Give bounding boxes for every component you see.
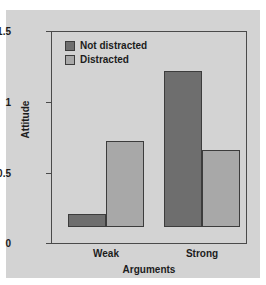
legend-swatch-icon-distracted — [65, 55, 75, 65]
y-tick-mark-0 — [46, 243, 51, 244]
bar-weak-not-distracted — [68, 214, 106, 227]
y-tick-label-1: 0.5 — [0, 169, 11, 179]
legend-item-not-distracted: Not distracted — [65, 40, 147, 52]
legend-swatch-icon-not-distracted — [65, 41, 75, 51]
y-tick-mark-2 — [46, 102, 51, 103]
bar-strong-not-distracted — [164, 71, 202, 227]
x-tick-label-strong: Strong — [157, 248, 247, 259]
y-tick-mark-3 — [46, 31, 51, 32]
x-tick-label-weak: Weak — [61, 248, 151, 259]
y-axis-label: Attitude — [20, 80, 31, 160]
chart-figure: 1.5 1 0.5 0 Attitude Weak Strong Argumen… — [6, 10, 260, 278]
legend: Not distracted Distracted — [62, 38, 151, 71]
y-tick-mark-1 — [46, 173, 51, 174]
y-tick-label-0: 0 — [0, 239, 11, 249]
y-tick-label-2: 1 — [0, 98, 11, 108]
legend-label-distracted: Distracted — [80, 55, 129, 65]
x-axis-label: Arguments — [51, 264, 247, 275]
legend-label-not-distracted: Not distracted — [80, 41, 147, 51]
bar-weak-distracted — [106, 141, 144, 227]
y-tick-label-3: 1.5 — [0, 27, 11, 37]
bar-strong-distracted — [202, 150, 240, 227]
legend-item-distracted: Distracted — [65, 54, 147, 66]
